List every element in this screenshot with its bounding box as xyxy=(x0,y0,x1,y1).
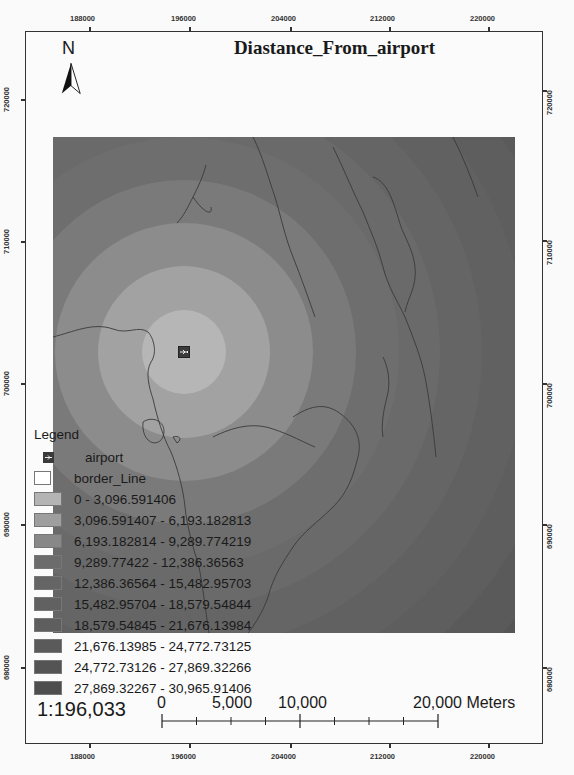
top-tick-label: 212000 xyxy=(370,14,395,23)
legend-label: 6,193.182814 - 9,289.774219 xyxy=(74,534,251,549)
legend-label: 24,772.73126 - 27,869.32266 xyxy=(74,660,251,675)
left-tick-label: 720000 xyxy=(2,87,11,112)
legend-item-range: 0 - 3,096.591406 xyxy=(34,490,176,508)
legend-item-airport: airport xyxy=(34,448,123,466)
legend-item-range: 18,579.54845 - 21,676.13984 xyxy=(34,616,251,634)
north-label: N xyxy=(62,38,75,59)
legend-swatch xyxy=(34,639,62,653)
top-tick xyxy=(488,27,490,32)
left-tick xyxy=(21,241,26,243)
legend-swatch xyxy=(34,534,62,548)
legend-item-range: 21,676.13985 - 24,772.73125 xyxy=(34,637,251,655)
legend-item-range: 12,386.36564 - 15,482.95703 xyxy=(34,574,251,592)
legend-swatch xyxy=(34,471,51,485)
legend-label: 12,386.36564 - 15,482.95703 xyxy=(74,576,251,591)
bottom-tick-label: 196000 xyxy=(171,752,196,761)
legend-label: 15,482.95704 - 18,579.54844 xyxy=(74,597,251,612)
legend-swatch xyxy=(34,555,62,569)
legend-swatch xyxy=(34,618,62,632)
airport-marker[interactable] xyxy=(178,346,190,358)
legend-item-range: 24,772.73126 - 27,869.32266 xyxy=(34,658,251,676)
left-tick xyxy=(21,383,26,385)
legend-swatch xyxy=(34,660,62,674)
top-tick xyxy=(290,27,292,32)
scale-label-5000: 5,000 xyxy=(212,694,252,712)
scale-ratio: 1:196,033 xyxy=(37,698,126,721)
bottom-tick xyxy=(488,743,490,748)
legend-title: Legend xyxy=(34,427,79,442)
airplane-icon xyxy=(43,452,54,463)
left-tick xyxy=(21,99,26,101)
legend-label: 21,676.13985 - 24,772.73125 xyxy=(74,639,251,654)
left-tick-label: 690000 xyxy=(2,512,11,537)
top-tick-label: 196000 xyxy=(171,14,196,23)
bottom-tick-label: 188000 xyxy=(70,752,95,761)
legend-swatch xyxy=(34,513,62,527)
bottom-tick-label: 204000 xyxy=(271,752,296,761)
map-title: Diastance_From_airport xyxy=(0,37,574,59)
legend-label: 9,289.77422 - 12,386.36563 xyxy=(74,555,244,570)
scale-label-20000: 20,000 Meters xyxy=(413,694,515,712)
scale-bar xyxy=(158,713,448,729)
left-tick-label: 710000 xyxy=(2,229,11,254)
legend-swatch xyxy=(34,492,62,506)
bottom-tick-label: 220000 xyxy=(470,752,495,761)
legend-label: 0 - 3,096.591406 xyxy=(74,492,176,507)
legend-label: 18,579.54845 - 21,676.13984 xyxy=(74,618,251,633)
bottom-tick-label: 212000 xyxy=(370,752,395,761)
legend-swatch xyxy=(34,681,62,695)
left-tick-label: 700000 xyxy=(2,371,11,396)
legend-swatch xyxy=(34,576,62,590)
right-tick-label: 680000 xyxy=(545,667,554,692)
top-tick xyxy=(189,27,191,32)
legend-label: 3,096.591407 - 6,193.182813 xyxy=(74,513,251,528)
legend-item-range: 15,482.95704 - 18,579.54844 xyxy=(34,595,251,613)
top-tick-label: 188000 xyxy=(70,14,95,23)
legend-swatch xyxy=(34,597,62,611)
legend-item-range: 6,193.182814 - 9,289.774219 xyxy=(34,532,251,550)
top-tick-label: 220000 xyxy=(470,14,495,23)
top-tick xyxy=(389,27,391,32)
right-tick-label: 720000 xyxy=(545,90,554,115)
left-tick xyxy=(21,667,26,669)
legend-item-range: 3,096.591407 - 6,193.182813 xyxy=(34,511,251,529)
bottom-tick xyxy=(290,743,292,748)
left-tick xyxy=(21,524,26,526)
top-tick xyxy=(89,27,91,32)
north-arrow-icon xyxy=(54,62,88,112)
scale-label-0: 0 xyxy=(157,694,166,712)
right-tick-label: 700000 xyxy=(545,383,554,408)
legend-label: border_Line xyxy=(74,471,146,486)
legend-item-range: 9,289.77422 - 12,386.36563 xyxy=(34,553,244,571)
airplane-icon xyxy=(179,347,189,357)
scale-label-10000: 10,000 xyxy=(278,694,327,712)
left-tick-label: 680000 xyxy=(2,655,11,680)
legend-label: airport xyxy=(85,450,123,465)
right-tick-label: 710000 xyxy=(545,240,554,265)
bottom-tick xyxy=(389,743,391,748)
bottom-tick xyxy=(89,743,91,748)
right-tick-label: 690000 xyxy=(545,524,554,549)
top-tick-label: 204000 xyxy=(271,14,296,23)
legend-item-border-line: border_Line xyxy=(34,469,146,487)
bottom-tick xyxy=(189,743,191,748)
